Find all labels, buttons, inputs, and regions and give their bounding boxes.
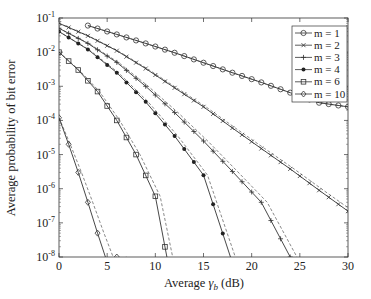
- x-tick-label: 20: [246, 259, 258, 273]
- y-tick-label: 10-3: [36, 78, 55, 93]
- svg-text:m = 2: m = 2: [314, 39, 340, 51]
- y-tick-label: 10-7: [36, 215, 55, 230]
- y-tick-label: 10-4: [36, 112, 55, 127]
- x-tick-label: 10: [149, 259, 161, 273]
- x-axis-label: Average γb (dB): [164, 276, 244, 292]
- x-tick-label: 5: [104, 259, 110, 273]
- y-tick-label: 10-8: [36, 249, 55, 264]
- x-tick-label: 15: [198, 259, 210, 273]
- svg-text:m = 1: m = 1: [314, 27, 340, 39]
- y-tick-label: 10-5: [36, 147, 55, 162]
- y-axis-label: Average probability of bit error: [4, 59, 18, 216]
- x-tick-label: 30: [342, 259, 354, 273]
- x-tick-label: 25: [294, 259, 306, 273]
- legend: m = 1m = 2m = 3m = 4m = 6m = 10: [292, 26, 347, 102]
- svg-text:m = 10: m = 10: [314, 88, 346, 100]
- svg-text:m = 6: m = 6: [314, 75, 340, 87]
- y-tick-label: 10-1: [36, 10, 55, 25]
- ber-chart: 051015202530 10-110-210-310-410-510-610-…: [0, 0, 371, 299]
- y-tick-label: 10-6: [36, 181, 55, 196]
- svg-text:m = 3: m = 3: [314, 51, 340, 63]
- svg-text:m = 4: m = 4: [314, 63, 340, 75]
- x-tick-label: 0: [56, 259, 62, 273]
- y-tick-label: 10-2: [36, 44, 55, 59]
